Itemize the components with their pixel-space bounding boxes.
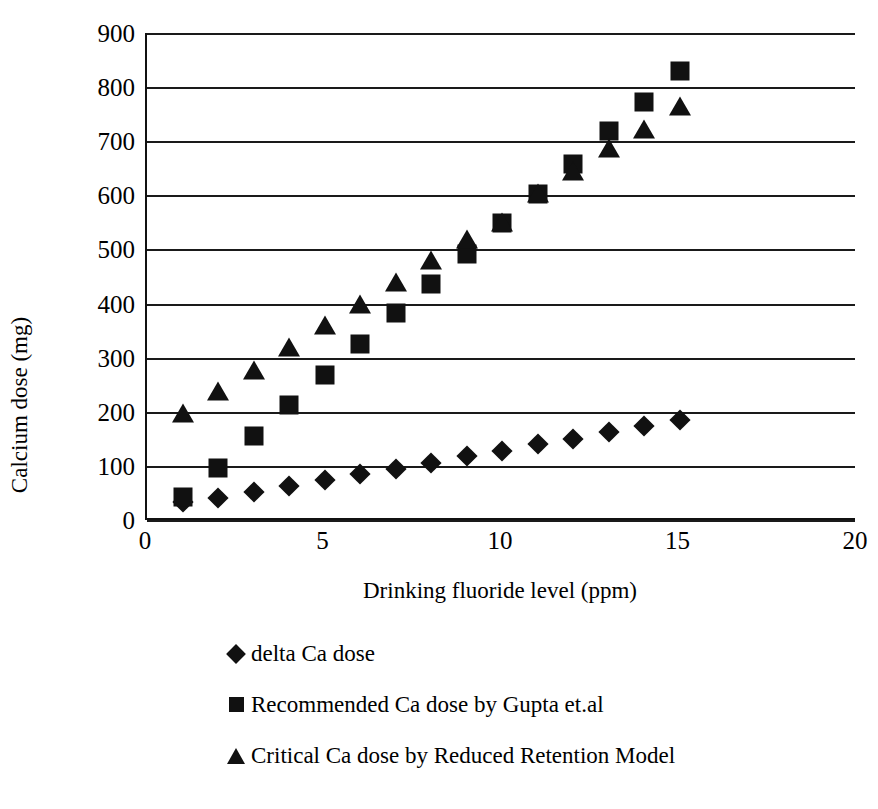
y-tick-label-400: 400 bbox=[65, 291, 135, 316]
data-point-square bbox=[280, 396, 299, 415]
y-tick-label-0: 0 bbox=[65, 508, 135, 533]
x-tick-label-15: 15 bbox=[665, 528, 690, 553]
data-point-triangle bbox=[562, 161, 584, 180]
data-point-triangle bbox=[633, 119, 655, 138]
legend-item-label: delta Ca dose bbox=[251, 642, 375, 665]
data-point-triangle bbox=[527, 183, 549, 202]
triangle-marker-icon bbox=[225, 745, 247, 767]
data-point-square bbox=[635, 92, 654, 111]
data-point-square bbox=[386, 304, 405, 323]
x-axis-tick-labels: 05101520 bbox=[145, 528, 855, 564]
plot-area bbox=[145, 33, 855, 520]
y-tick-label-900: 900 bbox=[65, 21, 135, 46]
square-marker-icon bbox=[225, 694, 247, 716]
data-point-diamond bbox=[456, 446, 477, 467]
x-tick-label-5: 5 bbox=[316, 528, 329, 553]
y-tick-label-200: 200 bbox=[65, 399, 135, 424]
data-point-triangle bbox=[669, 97, 691, 116]
y-tick-label-600: 600 bbox=[65, 183, 135, 208]
legend-item-label: Recommended Ca dose by Gupta et.al bbox=[251, 693, 604, 716]
data-point-square bbox=[173, 487, 192, 506]
gridline-600 bbox=[147, 195, 855, 197]
data-point-diamond bbox=[278, 475, 299, 496]
gridline-800 bbox=[147, 87, 855, 89]
data-point-square bbox=[351, 335, 370, 354]
gridline-900 bbox=[147, 33, 855, 35]
x-tick-label-20: 20 bbox=[843, 528, 868, 553]
data-point-square bbox=[422, 274, 441, 293]
data-point-diamond bbox=[527, 434, 548, 455]
gridline-700 bbox=[147, 141, 855, 143]
data-point-square bbox=[209, 458, 228, 477]
data-point-triangle bbox=[456, 229, 478, 248]
chart-legend: delta Ca doseRecommended Ca dose by Gupt… bbox=[145, 628, 855, 781]
legend-item-label: Critical Ca dose by Reduced Retention Mo… bbox=[251, 744, 675, 767]
data-point-square bbox=[670, 61, 689, 80]
data-point-diamond bbox=[633, 416, 654, 437]
y-tick-label-100: 100 bbox=[65, 453, 135, 478]
data-point-triangle bbox=[598, 139, 620, 158]
gridline-200 bbox=[147, 412, 855, 414]
gridline-100 bbox=[147, 466, 855, 468]
data-point-diamond bbox=[598, 422, 619, 443]
data-point-diamond bbox=[314, 470, 335, 491]
y-tick-label-300: 300 bbox=[65, 345, 135, 370]
data-point-diamond bbox=[207, 488, 228, 509]
data-point-diamond bbox=[420, 453, 441, 474]
data-point-triangle bbox=[207, 382, 229, 401]
data-point-triangle bbox=[278, 337, 300, 356]
legend-item-1[interactable]: Recommended Ca dose by Gupta et.al bbox=[145, 679, 855, 730]
gridline-500 bbox=[147, 249, 855, 251]
data-point-triangle bbox=[349, 294, 371, 313]
diamond-marker-icon bbox=[225, 643, 247, 665]
data-point-diamond bbox=[243, 481, 264, 502]
y-tick-label-800: 800 bbox=[65, 75, 135, 100]
gridline-0 bbox=[147, 520, 855, 522]
data-point-square bbox=[244, 427, 263, 446]
y-axis-tick-labels: 0100200300400500600700800900 bbox=[55, 33, 135, 520]
y-tick-label-700: 700 bbox=[65, 129, 135, 154]
data-point-triangle bbox=[385, 272, 407, 291]
x-axis-title: Drinking fluoride level (ppm) bbox=[145, 578, 855, 604]
gridline-400 bbox=[147, 304, 855, 306]
data-point-diamond bbox=[562, 428, 583, 449]
data-point-diamond bbox=[491, 440, 512, 461]
data-point-triangle bbox=[243, 360, 265, 379]
scatter-chart-figure: 0100200300400500600700800900 05101520 Ca… bbox=[0, 0, 878, 809]
y-tick-label-500: 500 bbox=[65, 237, 135, 262]
legend-item-2[interactable]: Critical Ca dose by Reduced Retention Mo… bbox=[145, 730, 855, 781]
data-point-triangle bbox=[314, 316, 336, 335]
y-axis-title: Calcium dose (mg) bbox=[7, 255, 33, 555]
legend-item-0[interactable]: delta Ca dose bbox=[145, 628, 855, 679]
x-tick-label-10: 10 bbox=[488, 528, 513, 553]
data-point-square bbox=[315, 365, 334, 384]
data-point-triangle bbox=[420, 251, 442, 270]
data-point-triangle bbox=[491, 213, 513, 232]
data-point-triangle bbox=[172, 404, 194, 423]
x-tick-label-0: 0 bbox=[139, 528, 152, 553]
data-point-diamond bbox=[385, 458, 406, 479]
